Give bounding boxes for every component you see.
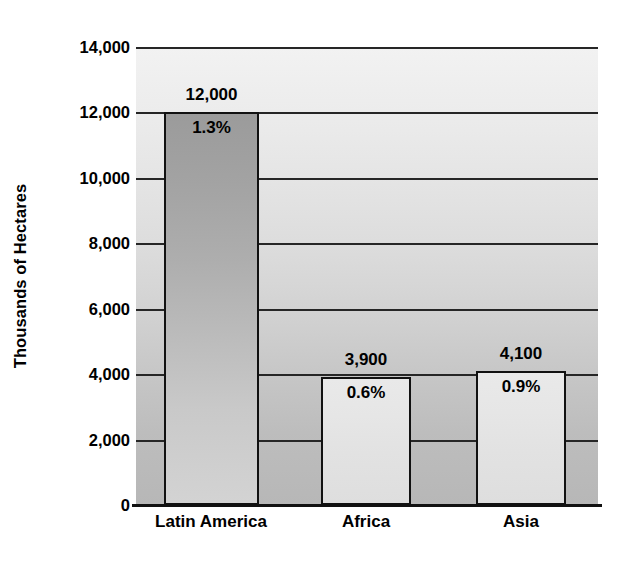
- bar-value-label-latin-america: 12,000: [164, 85, 259, 105]
- x-axis-baseline: [132, 504, 602, 507]
- x-axis-label-asia: Asia: [456, 512, 586, 532]
- y-tick-label-12000: 12,000: [38, 103, 130, 122]
- y-tick-label-0: 0: [38, 496, 130, 515]
- y-axis-title: Thousands of Hectares: [0, 0, 40, 566]
- y-tick-label-2000: 2,000: [38, 431, 130, 450]
- y-tick-label-8000: 8,000: [38, 234, 130, 253]
- bar-percent-label-latin-america: 1.3%: [164, 118, 259, 138]
- y-tick-label-6000: 6,000: [38, 300, 130, 319]
- x-axis-labels: Latin America Africa Asia: [136, 512, 598, 548]
- gridline-14000: [136, 47, 598, 49]
- y-axis-title-text: Thousands of Hectares: [11, 184, 30, 369]
- bar-percent-label-africa: 0.6%: [321, 383, 411, 403]
- y-tick-label-14000: 14,000: [38, 38, 130, 57]
- x-axis-label-africa: Africa: [301, 512, 431, 532]
- plot-area: 12,000 3,900 4,100 1.3% 0.6% 0.9%: [136, 47, 598, 505]
- x-axis-label-latin-america: Latin America: [146, 512, 276, 532]
- bar-value-label-africa: 3,900: [321, 350, 411, 370]
- bar-chart: Thousands of Hectares 14,000 12,000 10,0…: [0, 0, 631, 566]
- y-tick-label-4000: 4,000: [38, 365, 130, 384]
- bar-percent-label-asia: 0.9%: [476, 377, 566, 397]
- bar-latin-america[interactable]: [164, 112, 259, 505]
- y-axis-ticks: 14,000 12,000 10,000 8,000 6,000 4,000 2…: [38, 0, 130, 566]
- bar-value-label-asia: 4,100: [476, 344, 566, 364]
- y-tick-label-10000: 10,000: [38, 169, 130, 188]
